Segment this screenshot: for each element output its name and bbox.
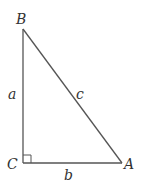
triangle-svg: B C A a b c: [0, 0, 141, 184]
right-triangle-diagram: B C A a b c: [0, 0, 141, 184]
side-label-a: a: [8, 86, 16, 102]
vertex-label-a: A: [122, 156, 134, 172]
side-c-line: [23, 29, 122, 163]
side-label-b: b: [64, 167, 73, 183]
vertex-label-b: B: [15, 11, 26, 27]
side-label-c: c: [76, 86, 84, 102]
right-angle-marker: [23, 155, 31, 163]
vertex-label-c: C: [7, 156, 18, 172]
